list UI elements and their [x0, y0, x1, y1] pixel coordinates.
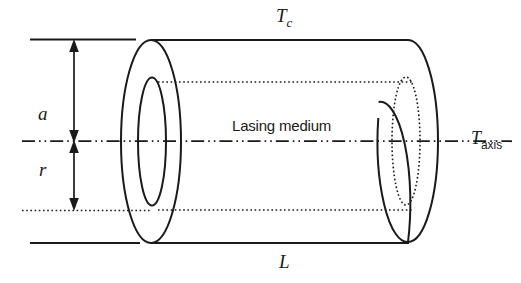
label-lasing-medium: Lasing medium	[232, 118, 331, 133]
label-outer-radius: a	[38, 104, 48, 123]
cylinder-diagram-svg	[0, 0, 521, 283]
label-taxis-subscript: axis	[481, 138, 502, 152]
label-inner-radius: r	[39, 160, 46, 179]
label-tc-base: T	[276, 5, 287, 26]
label-taxis-base: T	[471, 128, 481, 148]
label-coolant-temperature: Tc	[276, 6, 292, 30]
figure-root: Tc Taxis a r L Lasing medium	[0, 0, 521, 283]
label-tc-subscript: c	[287, 15, 293, 30]
label-length: L	[279, 252, 290, 271]
label-axis-temperature: Taxis	[471, 129, 502, 151]
